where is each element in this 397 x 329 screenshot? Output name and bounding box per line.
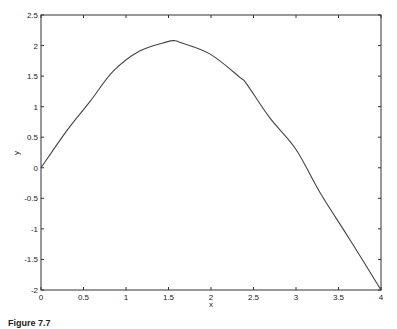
x-tick-label: 0 [39, 293, 44, 302]
y-tick-label: 2 [34, 42, 39, 51]
y-axis-label: y [12, 151, 21, 155]
y-tick-label: 0.5 [27, 133, 39, 142]
y-tick-label: 0 [34, 164, 39, 173]
y-tick-label: -1.5 [24, 255, 38, 264]
y-tick-label: 1 [34, 103, 39, 112]
y-tick-label: -1 [31, 225, 39, 234]
y-tick-label: 2.5 [27, 11, 39, 20]
plot-frame [41, 15, 381, 290]
x-tick-label: 2.5 [248, 293, 260, 302]
x-tick-label: 1.5 [163, 293, 175, 302]
x-tick-label: 0.5 [78, 293, 90, 302]
x-tick-label: 1 [124, 293, 129, 302]
line-chart: 00.511.522.533.54-2-1.5-1-0.500.511.522.… [0, 0, 397, 329]
y-tick-label: -2 [31, 286, 39, 295]
figure-caption: Figure 7.7 [8, 318, 51, 328]
x-axis-label: x [209, 300, 213, 309]
x-tick-label: 4 [379, 293, 384, 302]
y-tick-label: -0.5 [24, 194, 38, 203]
y-tick-label: 1.5 [27, 72, 39, 81]
tick-labels: 00.511.522.533.54-2-1.5-1-0.500.511.522.… [24, 11, 384, 302]
axis-ticks [41, 15, 381, 290]
data-line [41, 41, 381, 290]
x-tick-label: 3.5 [333, 293, 345, 302]
x-tick-label: 3 [294, 293, 299, 302]
